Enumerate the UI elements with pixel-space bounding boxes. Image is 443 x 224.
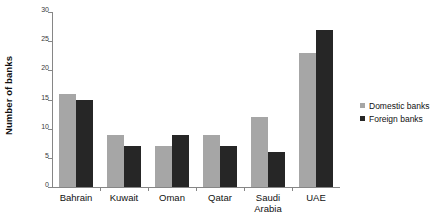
x-axis-label: Qatar (196, 192, 244, 203)
legend-item-foreign: Foreign banks (360, 112, 443, 125)
x-axis-label: Kuwait (100, 192, 148, 203)
y-axis-tick-label: 15 (41, 94, 49, 101)
bar (76, 100, 93, 188)
bar-group (196, 12, 244, 187)
bar (299, 53, 316, 187)
bar (172, 135, 189, 188)
bar (203, 135, 220, 188)
y-axis-title-label: Number of banks (4, 55, 15, 134)
legend-swatch-domestic-icon (360, 103, 365, 108)
y-axis-tick-label: 20 (41, 64, 49, 71)
bar (107, 135, 124, 188)
bar (316, 30, 333, 188)
bar (220, 146, 237, 187)
y-axis-tick-label: 25 (41, 35, 49, 42)
x-axis-tick-mark (292, 187, 293, 191)
y-axis-tick-label: 5 (45, 152, 49, 159)
bar (155, 146, 172, 187)
bar-group (100, 12, 148, 187)
x-axis-tick-mark (196, 187, 197, 191)
bar-chart: Number of banks 051015202530 BahrainKuwa… (0, 0, 443, 224)
legend-item-domestic: Domestic banks (360, 99, 443, 112)
bar (268, 152, 285, 187)
y-axis-tick-label: 30 (41, 6, 49, 13)
bar-group (292, 12, 340, 187)
x-axis-tick-mark (148, 187, 149, 191)
x-axis-label: Oman (148, 192, 196, 203)
x-axis-label: Bahrain (52, 192, 100, 203)
y-axis-tick-label: 10 (41, 123, 49, 130)
legend-label-foreign: Foreign banks (369, 114, 423, 124)
x-axis-label: UAE (292, 192, 340, 203)
bar (59, 94, 76, 187)
bar (124, 146, 141, 187)
x-axis-labels: BahrainKuwaitOmanQatarSaudi ArabiaUAE (52, 192, 340, 224)
bar (251, 117, 268, 187)
y-axis-tick-label: 0 (45, 181, 49, 188)
legend-swatch-foreign-icon (360, 116, 365, 121)
legend-label-domestic: Domestic banks (369, 101, 429, 111)
x-axis-tick-mark (100, 187, 101, 191)
x-axis-label: Saudi Arabia (244, 192, 292, 214)
x-axis-tick-mark (244, 187, 245, 191)
bar-group (52, 12, 100, 187)
bar-group (148, 12, 196, 187)
chart-legend: Domestic banks Foreign banks (360, 99, 443, 125)
bar-group (244, 12, 292, 187)
plot-area: 051015202530 (52, 12, 340, 187)
y-axis-title: Number of banks (0, 0, 18, 190)
